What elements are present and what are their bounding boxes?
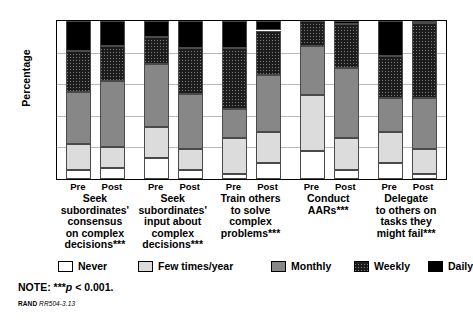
bar-segment (256, 31, 281, 75)
bar-segment (178, 48, 203, 94)
bar-segment (412, 21, 437, 23)
bar-segment (412, 98, 437, 149)
bar-segment (300, 151, 325, 179)
stacked-bar (300, 21, 325, 179)
stacked-bar (144, 21, 169, 179)
stacked-bar (178, 21, 203, 179)
bar-segment (178, 94, 203, 149)
note-suffix: < 0.001. (72, 281, 113, 293)
bar-segment (256, 75, 281, 132)
bar-segment (256, 132, 281, 164)
bar-segment (144, 127, 169, 159)
bar-segment (378, 21, 403, 56)
legend-swatch-icon (58, 261, 73, 272)
chart-note: NOTE: ***p < 0.001. (18, 281, 113, 293)
bar-segment (144, 37, 169, 64)
x-axis-tick-label: Post (170, 181, 210, 192)
bar-segment (256, 21, 281, 30)
plot-area (56, 20, 447, 180)
x-axis-tick-label: Post (248, 181, 288, 192)
legend-swatch-icon (271, 261, 286, 272)
bar-segment (300, 46, 325, 95)
bar-segment (144, 21, 169, 37)
bar-segment (178, 170, 203, 179)
legend-item: Weekly (354, 258, 410, 274)
source-credit: RAND RR504-3.13 (18, 300, 75, 307)
legend-item: Never (58, 258, 107, 274)
x-axis-tick-label: Post (92, 181, 132, 192)
bar-segment (222, 48, 247, 110)
bar-segment (222, 21, 247, 48)
x-axis-tick-label: Post (403, 181, 443, 192)
stacked-bar (378, 21, 403, 179)
legend-swatch-icon (428, 261, 443, 272)
bar-segment (412, 149, 437, 174)
bar-segment (222, 138, 247, 174)
bar-segment (222, 174, 247, 179)
plot-inner (57, 21, 446, 179)
source-id: RR504-3.13 (39, 300, 75, 307)
bar-segment (334, 138, 359, 170)
x-axis-tick-label: Post (325, 181, 365, 192)
legend-label: Monthly (291, 260, 331, 272)
legend-item: Few times/year (138, 258, 233, 274)
bar-segment (412, 174, 437, 179)
bar-segment (222, 109, 247, 137)
bar-segment (334, 68, 359, 138)
bar-segment (178, 149, 203, 170)
bar-segment (334, 21, 359, 24)
bar-segment (378, 132, 403, 164)
bar-segment (100, 147, 125, 168)
source-brand: RAND (18, 300, 37, 307)
bar-segment (334, 170, 359, 179)
legend-item: Monthly (271, 258, 331, 274)
chart-legend: NeverFew times/yearMonthlyWeeklyDaily (58, 258, 450, 274)
bar-segment (66, 170, 91, 179)
bar-segment (378, 98, 403, 131)
legend-label: Daily (448, 260, 473, 272)
bar-segment (300, 21, 325, 46)
bar-segment (300, 95, 325, 150)
stacked-bar (100, 21, 125, 179)
legend-label: Few times/year (158, 260, 233, 272)
bar-segment (66, 51, 91, 92)
note-prefix: NOTE: *** (18, 281, 66, 293)
bar-segment (66, 21, 91, 51)
legend-label: Weekly (374, 260, 410, 272)
bar-segment (66, 144, 91, 169)
bar-segment (144, 64, 169, 127)
stacked-bar (222, 21, 247, 179)
y-axis-title: Percentage (20, 18, 32, 138)
legend-label: Never (78, 260, 107, 272)
stacked-bar (66, 21, 91, 179)
legend-swatch-icon (354, 261, 369, 272)
bar-segment (412, 23, 437, 99)
bar-segment (144, 158, 169, 179)
bar-segment (100, 21, 125, 46)
bar-segment (378, 163, 403, 179)
bar-segment (100, 46, 125, 81)
legend-item: Daily (428, 258, 473, 274)
legend-swatch-icon (138, 261, 153, 272)
bar-segment (178, 21, 203, 48)
bar-segment (100, 168, 125, 179)
stacked-bar (334, 21, 359, 179)
bar-segment (334, 24, 359, 68)
stacked-bar (412, 21, 437, 179)
bar-segment (378, 56, 403, 99)
bar-segment (66, 92, 91, 144)
bar-segment (256, 163, 281, 179)
group-caption: Delegate to others on tasks they might f… (360, 193, 452, 239)
bar-segment (100, 81, 125, 147)
stacked-bar (256, 21, 281, 179)
